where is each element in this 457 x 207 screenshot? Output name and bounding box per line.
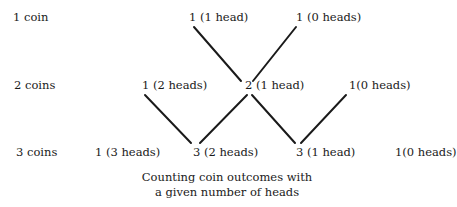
edge-2coins-1head-to-3coins-2heads — [200, 95, 247, 143]
node-1coin-0heads: 1 (0 heads) — [296, 12, 361, 24]
node-3coins-0heads: 1(0 heads) — [395, 147, 457, 159]
edge-2coins-2heads-to-3coins-2heads — [145, 95, 191, 143]
diagram-caption: Counting coin outcomes with a given numb… — [0, 170, 454, 200]
caption-line-1: Counting coin outcomes with — [0, 170, 454, 185]
node-2coins-0heads: 1(0 heads) — [349, 80, 411, 92]
node-3coins-1head: 3 (1 head) — [296, 147, 355, 159]
edge-1coin-0heads-to-2coins-1head — [253, 27, 296, 81]
node-1coin-1head: 1 (1 head) — [189, 12, 248, 24]
node-3coins-3heads: 1 (3 heads) — [95, 147, 160, 159]
row-label-3-coins: 3 coins — [16, 147, 57, 159]
row-label-1-coin: 1 coin — [13, 12, 48, 24]
node-2coins-1head: 2 (1 head) — [245, 80, 304, 92]
edge-2coins-0heads-to-3coins-1head — [301, 95, 346, 143]
row-label-2-coins: 2 coins — [14, 80, 55, 92]
node-2coins-2heads: 1 (2 heads) — [142, 80, 207, 92]
caption-line-2: a given number of heads — [0, 185, 454, 200]
edge-1coin-1head-to-2coins-1head — [194, 27, 241, 81]
edge-2coins-1head-to-3coins-1head — [252, 95, 295, 143]
node-3coins-2heads: 3 (2 heads) — [193, 147, 258, 159]
